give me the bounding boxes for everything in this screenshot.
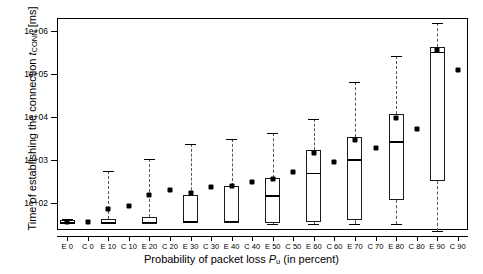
median-line [183,221,198,223]
whisker-upper [191,144,192,196]
whisker-cap-lower [391,224,402,225]
x-axis-line [57,236,468,237]
x-tick-mark [355,236,356,241]
x-tick-label: E 20 [142,242,158,251]
whisker-cap-upper [267,133,278,134]
x-tick-mark [252,236,253,241]
y-tick-label: 1e+05 [0,69,48,79]
x-tick-mark [314,236,315,241]
x-tick-label: E 40 [224,242,240,251]
x-tick-label: E 0 [62,242,73,251]
box-iqr [347,137,362,220]
x-tick-label: C 60 [326,242,342,251]
x-tick-label: C 80 [409,242,425,251]
whisker-upper [437,23,438,47]
data-point [332,159,337,164]
mean-marker [106,207,111,212]
mean-marker [394,115,399,120]
data-point [373,146,378,151]
mean-marker [435,47,440,52]
x-tick-mark [273,236,274,241]
whisker-cap-lower [308,224,319,225]
y-tick-label: 1e+06 [0,26,48,36]
whisker-cap-lower [432,231,443,232]
x-tick-mark [458,236,459,241]
median-line [265,195,280,197]
x-tick-mark [232,236,233,241]
data-point [291,170,296,175]
x-tick-label: C 50 [285,242,301,251]
x-tick-mark [149,236,150,241]
whisker-cap-upper [391,56,402,57]
median-line [306,173,321,175]
whisker-upper [273,133,274,177]
whisker-cap-upper [349,82,360,83]
boxplot-figure: Time of establishing the connection tCON… [0,0,483,274]
whisker-upper [355,82,356,137]
x-tick-label: E 30 [183,242,199,251]
x-tick-mark [211,236,212,241]
x-axis-title-post: (in percent) [280,253,339,265]
y-tick-label: 1e+04 [0,112,48,122]
mean-marker [311,151,316,156]
data-point [414,127,419,132]
median-line [101,222,116,224]
data-point [168,187,173,192]
x-axis-title: Probability of packet loss Pu (in percen… [0,253,483,266]
x-tick-mark [376,236,377,241]
data-point [85,220,90,225]
x-tick-label: E 10 [101,242,117,251]
x-tick-label: C 40 [244,242,260,251]
whisker-upper [108,171,109,219]
whisker-lower [396,200,397,224]
x-tick-label: C 70 [367,242,383,251]
x-tick-mark [191,236,192,241]
x-tick-label: E 60 [306,242,322,251]
x-tick-label: C 90 [450,242,466,251]
x-tick-mark [170,236,171,241]
x-tick-label: E 70 [347,242,363,251]
whisker-cap-lower [267,224,278,225]
x-tick-mark [396,236,397,241]
median-line [224,221,239,223]
mean-marker [188,190,193,195]
x-tick-mark [334,236,335,241]
whisker-lower [437,181,438,231]
mean-marker [147,193,152,198]
x-tick-mark [67,236,68,241]
whisker-cap-upper [185,144,196,145]
data-point [455,67,460,72]
x-tick-mark [88,236,89,241]
mean-marker [270,176,275,181]
y-axis-title-symbol: t [26,52,38,55]
whisker-cap-upper [144,159,155,160]
box-iqr [389,114,404,200]
whisker-cap-upper [226,139,237,140]
x-tick-mark [129,236,130,241]
mean-marker [65,220,70,225]
plot-area [57,18,468,230]
x-tick-mark [417,236,418,241]
x-tick-mark [108,236,109,241]
box-iqr [430,47,445,181]
whisker-upper [149,159,150,217]
mean-marker [229,183,234,188]
whisker-upper [314,119,315,150]
box-iqr [306,150,321,222]
data-point [126,203,131,208]
x-tick-label: E 80 [388,242,404,251]
whisker-upper [232,139,233,185]
y-tick-label: 1e+02 [0,198,48,208]
box-iqr [265,178,280,223]
x-tick-label: C 30 [203,242,219,251]
median-line [347,159,362,161]
mean-marker [352,138,357,143]
x-axis-title-symbol: P [269,253,276,265]
whisker-cap-upper [308,119,319,120]
whisker-cap-upper [432,23,443,24]
data-point [209,185,214,190]
x-tick-label: C 10 [121,242,137,251]
y-tick-label: 1e+03 [0,155,48,165]
x-tick-label: C 0 [82,242,94,251]
box-iqr [183,195,198,223]
